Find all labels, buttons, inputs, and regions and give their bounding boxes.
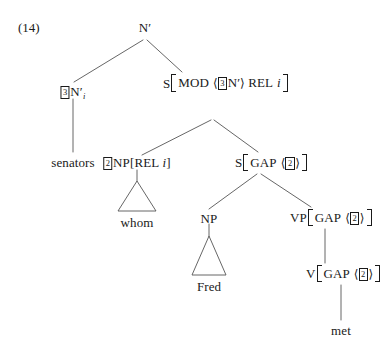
elision-triangle-fred [192, 236, 226, 275]
avm-vp-gap: VP GAP⟨2⟩ [290, 209, 372, 226]
bracket-right-icon [283, 74, 288, 92]
bracket-right-icon [375, 265, 380, 282]
node-root-nbar: N′ [139, 21, 151, 34]
avm-attr-gap: GAP [324, 266, 350, 281]
branch-root-to-nbar [74, 40, 143, 82]
node-s-mod-rel: S MOD⟨3N′⟩ RELi [163, 74, 288, 92]
node-np-rel-attr: REL [134, 155, 159, 170]
avm-row-rel: RELi [248, 75, 281, 90]
angle-close-icon: ⟩ [368, 267, 373, 281]
node-s-gap-label: S [235, 156, 243, 169]
node-s-mod-label: S [163, 77, 171, 90]
avm-row-gap: GAP⟨2⟩ [250, 155, 300, 170]
tag-box-3-nbar: 3 [60, 86, 69, 99]
tag-box-2-sgap: 2 [285, 157, 294, 170]
node-v-gap: V GAP⟨2⟩ [306, 265, 380, 282]
tag-box-2-np: 2 [103, 157, 112, 170]
example-number: (14) [18, 20, 40, 36]
avm-val-rel: i [277, 75, 281, 90]
avm-body-s-mod: MOD⟨3N′⟩ RELi [176, 74, 282, 92]
node-s-gap: S GAP⟨2⟩ [235, 154, 307, 171]
terminal-whom: whom [121, 216, 154, 229]
angle-close-icon: ⟩ [295, 156, 300, 170]
node-root-nbar-prime: ′ [148, 20, 151, 35]
tree-branch-lines [0, 0, 389, 356]
avm-attr-mod: MOD [178, 75, 209, 90]
node-left-nbar-label: N [70, 84, 80, 99]
branch-s-to-s-gap [214, 120, 258, 152]
node-vp-gap-label: VP [290, 211, 308, 224]
node-np-rel: 2NP[REL i] [103, 156, 171, 170]
avm-s-gap: S GAP⟨2⟩ [235, 154, 307, 171]
branch-sgap-to-vp [261, 174, 311, 207]
branch-s-to-np-rel [142, 120, 211, 155]
tag-box-2-vgap: 2 [359, 268, 368, 281]
terminal-fred: Fred [197, 280, 221, 293]
angle-close-icon: ⟩ [360, 211, 365, 225]
bracket-right-icon [367, 209, 372, 226]
avm-row-gap: GAP⟨2⟩ [315, 210, 365, 225]
angle-close-icon: ⟩ [240, 76, 245, 90]
node-np-subject: NP [201, 212, 218, 225]
avm-body-v-gap: GAP⟨2⟩ [322, 265, 376, 282]
avm-body-vp-gap: GAP⟨2⟩ [313, 209, 367, 226]
avm-row-mod: MOD⟨3N′⟩ [178, 75, 248, 90]
node-left-nbar-prime: ′ [80, 84, 83, 99]
avm-attr-rel: REL [248, 75, 273, 90]
avm-attr-gap: GAP [315, 210, 341, 225]
node-vp-gap: VP GAP⟨2⟩ [290, 209, 372, 226]
avm-body-s-gap: GAP⟨2⟩ [248, 154, 302, 171]
elision-triangle-whom [118, 181, 156, 211]
avm-attr-gap: GAP [250, 155, 276, 170]
tag-box-2-vpgap: 2 [350, 212, 359, 225]
terminal-senators: senators [51, 156, 94, 169]
avm-val-mod-cat: N′ [228, 75, 240, 90]
tag-box-3-mod: 3 [218, 77, 227, 90]
branch-sgap-to-np [209, 174, 257, 209]
avm-s-mod-rel: S MOD⟨3N′⟩ RELi [163, 74, 288, 92]
avm-row-gap: GAP⟨2⟩ [324, 266, 374, 281]
node-left-nbar-index: i [83, 91, 85, 101]
node-np-rel-label: NP [113, 155, 130, 170]
node-left-nbar: 3N′i [60, 85, 85, 101]
bracket-right-icon [302, 154, 307, 171]
branch-root-to-s-mod [147, 40, 182, 72]
node-v-gap-label: V [306, 267, 317, 280]
terminal-met: met [331, 324, 351, 337]
node-np-rel-bracket-close: ] [166, 155, 170, 170]
avm-v-gap: V GAP⟨2⟩ [306, 265, 380, 282]
node-root-nbar-label: N [139, 20, 149, 35]
